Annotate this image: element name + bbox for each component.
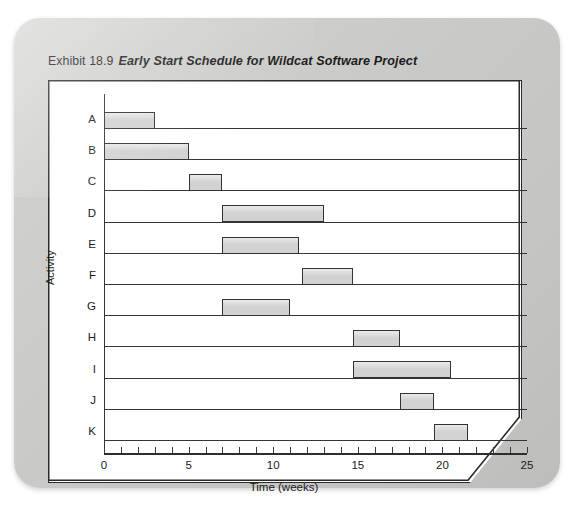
exhibit-number: Exhibit 18.9 [48, 54, 113, 68]
x-axis-tick [307, 447, 308, 453]
exhibit-caption: Exhibit 18.9Early Start Schedule for Wil… [48, 54, 518, 68]
y-axis-label-g: G [48, 300, 96, 312]
x-axis-tick [256, 447, 257, 453]
x-axis-tick [206, 447, 207, 453]
y-axis-label-c: C [48, 175, 96, 187]
x-axis-label-15: 15 [343, 459, 373, 471]
x-axis-tick [409, 447, 410, 453]
x-axis-tick [375, 447, 376, 453]
x-axis-tick [273, 447, 274, 453]
x-axis-tick [459, 447, 460, 453]
exhibit-title: Early Start Schedule for Wildcat Softwar… [118, 54, 417, 68]
x-axis-tick [290, 447, 291, 453]
x-axis-title: Time (weeks) [48, 481, 520, 493]
gantt-bar-e [222, 237, 298, 254]
activity-row-line [104, 315, 527, 316]
y-axis-label-e: E [48, 238, 96, 250]
x-axis-tick [527, 447, 528, 453]
x-axis-label-20: 20 [427, 459, 457, 471]
x-axis-tick [510, 447, 511, 453]
y-axis-label-k: K [48, 425, 96, 437]
exhibit-page: Exhibit 18.9Early Start Schedule for Wil… [14, 18, 560, 488]
x-axis-tick [493, 447, 494, 453]
x-axis-tick [392, 447, 393, 453]
y-axis-label-j: J [48, 394, 96, 406]
x-axis-tick [172, 447, 173, 453]
x-axis-tick [442, 447, 443, 453]
x-axis-tick [155, 447, 156, 453]
y-axis-label-i: I [48, 363, 96, 375]
gantt-bar-k [434, 424, 468, 441]
gantt-bar-g [222, 299, 290, 316]
x-axis-label-10: 10 [258, 459, 288, 471]
x-axis-tick [476, 447, 477, 453]
x-axis-tick [189, 447, 190, 453]
gantt-plot: Activity Time (weeks) © Cengage Learning… [48, 80, 520, 481]
activity-row-line [104, 378, 527, 379]
activity-row-line [104, 253, 527, 254]
x-axis-tick [358, 447, 359, 453]
gantt-bar-h [353, 330, 400, 347]
x-axis-tick [425, 447, 426, 453]
gantt-bar-d [222, 205, 324, 222]
x-axis-tick [341, 447, 342, 453]
activity-row-line [104, 190, 527, 191]
y-axis-label-d: D [48, 207, 96, 219]
gantt-bar-j [400, 393, 434, 410]
gantt-bar-b [104, 143, 189, 160]
x-axis-tick [239, 447, 240, 453]
activity-row-line [104, 128, 527, 129]
gantt-bar-c [189, 174, 223, 191]
y-axis-label-a: A [48, 113, 96, 125]
x-axis [104, 453, 527, 455]
y-axis-label-h: H [48, 331, 96, 343]
x-axis-label-5: 5 [174, 459, 204, 471]
x-axis-tick [104, 447, 105, 453]
gantt-bar-f [302, 268, 353, 285]
x-axis-tick [324, 447, 325, 453]
x-axis-tick [138, 447, 139, 453]
x-axis-label-0: 0 [89, 459, 119, 471]
x-axis-tick [222, 447, 223, 453]
y-axis-label-b: B [48, 144, 96, 156]
gantt-bar-a [104, 112, 155, 129]
gantt-bar-i [353, 361, 451, 378]
activity-row-line [104, 409, 527, 410]
activity-row-line [104, 346, 527, 347]
x-axis-tick [121, 447, 122, 453]
y-axis-label-f: F [48, 269, 96, 281]
x-axis-label-25: 25 [512, 459, 542, 471]
